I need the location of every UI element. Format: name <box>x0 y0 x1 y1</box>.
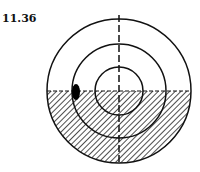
concentric-circles-diagram <box>0 0 200 172</box>
dark-blob-marker <box>72 84 80 100</box>
